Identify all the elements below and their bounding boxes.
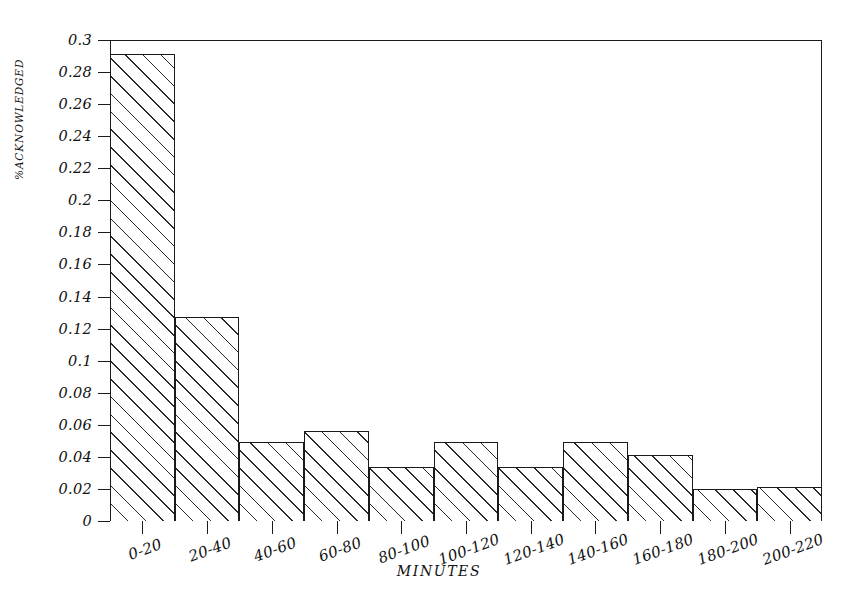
x-tick-label-text: 20-40 [186, 533, 234, 565]
y-tick [98, 297, 110, 298]
y-tick-label-text: 0.22 [59, 160, 93, 176]
x-tick [531, 521, 532, 534]
y-axis-title: %ACKNOWLEDGED [13, 0, 25, 180]
bar [693, 489, 758, 521]
x-tick [595, 521, 596, 534]
y-tick-label-text: 0.1 [68, 353, 92, 369]
x-tick [790, 521, 791, 534]
x-tick [401, 521, 402, 534]
bar [498, 467, 563, 522]
x-tick [142, 521, 143, 534]
y-tick [98, 168, 110, 169]
y-tick-label-text: 0.12 [59, 321, 93, 337]
bar [110, 54, 175, 521]
y-tick-label-text: 0.02 [59, 481, 93, 497]
y-tick-label-text: 0.18 [59, 224, 93, 240]
y-tick [98, 72, 110, 73]
y-tick [98, 361, 110, 362]
y-tick [98, 425, 110, 426]
y-tick [98, 393, 110, 394]
x-tick [660, 521, 661, 534]
x-tick [207, 521, 208, 534]
x-axis-title: MINUTES [0, 563, 862, 579]
y-tick-label-text: 0.16 [59, 256, 93, 272]
y-tick [98, 264, 110, 265]
bar [304, 431, 369, 521]
bar [757, 487, 822, 521]
y-tick [98, 40, 110, 41]
y-tick-label-text: 0.24 [59, 128, 93, 144]
y-tick-label-text: 0.06 [59, 417, 93, 433]
x-tick-label-text: 60-80 [316, 533, 364, 565]
y-tick-label-text: 0.26 [59, 96, 93, 112]
x-tick-label-text: 80-100 [376, 532, 433, 567]
y-tick [98, 104, 110, 105]
y-tick [98, 457, 110, 458]
y-tick-label-text: 0.28 [59, 64, 93, 80]
y-tick-label-text: 0.08 [59, 385, 93, 401]
y-tick [98, 329, 110, 330]
chart-canvas: 00.020.040.060.080.10.120.140.160.180.20… [0, 0, 862, 607]
y-tick-label-text: 0.3 [68, 32, 92, 48]
y-tick [98, 489, 110, 490]
bar [628, 455, 693, 521]
x-axis-title-label: MINUTES [381, 563, 481, 579]
bar [563, 442, 628, 521]
y-tick [98, 521, 110, 522]
x-tick [272, 521, 273, 534]
y-tick-label-text: 0.04 [59, 449, 93, 465]
bar [434, 442, 499, 521]
x-tick [725, 521, 726, 534]
x-tick [337, 521, 338, 534]
y-tick-label-text: 0.14 [59, 289, 93, 305]
y-tick [98, 232, 110, 233]
bar-series [110, 40, 822, 521]
y-tick-label-text: 0 [82, 513, 92, 529]
y-tick-label-text: 0.2 [68, 192, 92, 208]
bar [175, 317, 240, 521]
bar [369, 467, 434, 522]
x-tick-label-text: 40-60 [251, 533, 299, 565]
y-axis-title-label: %ACKNOWLEDGED [13, 59, 25, 180]
x-tick [466, 521, 467, 534]
y-tick [98, 200, 110, 201]
x-tick-label-text: 0-20 [126, 535, 165, 564]
y-tick [98, 136, 110, 137]
bar [239, 442, 304, 521]
